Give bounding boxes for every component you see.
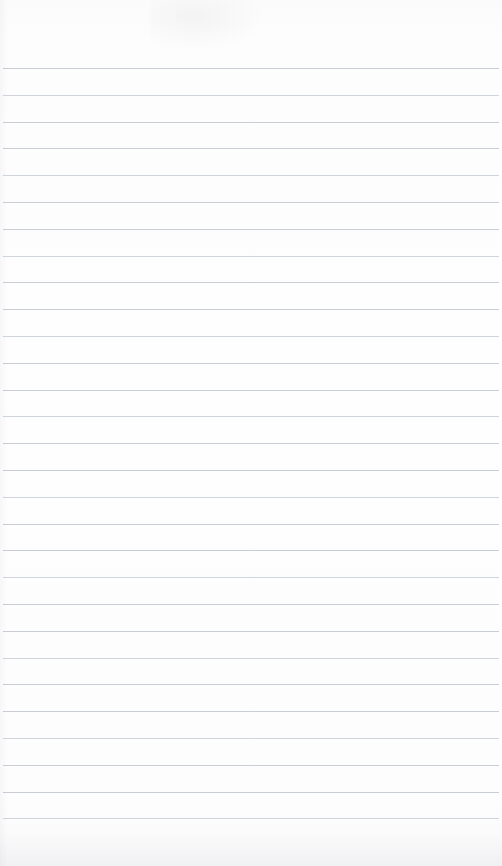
notepad-page [0,0,502,866]
writing-area[interactable] [3,68,499,836]
